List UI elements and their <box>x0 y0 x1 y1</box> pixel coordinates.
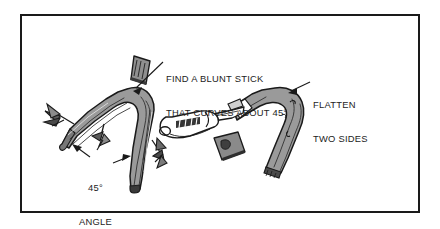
label-angle-line2: ANGLE <box>79 216 112 227</box>
label-flatten-line2: TWO SIDES <box>313 133 368 144</box>
figure-canvas: FIND A BLUNT STICK THAT CURVES ABOUT 45°… <box>0 0 440 229</box>
label-flatten-line1: FLATTEN <box>313 99 368 110</box>
label-angle-line1: 45° <box>79 182 112 193</box>
label-find-line2: THAT CURVES ABOUT 45° <box>166 107 287 118</box>
label-45-degree-angle: 45° ANGLE <box>79 159 112 229</box>
label-flatten-two-sides: FLATTEN TWO SIDES <box>313 76 368 167</box>
label-find-line1: FIND A BLUNT STICK <box>166 73 287 84</box>
label-find-blunt-stick: FIND A BLUNT STICK THAT CURVES ABOUT 45° <box>166 50 287 141</box>
